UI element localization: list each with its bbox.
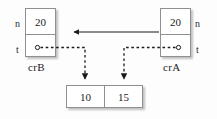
node-crb-field-n-value: 20 xyxy=(26,9,55,35)
node-crb-field-t-label: t xyxy=(16,45,19,55)
node-cra-field-n-value: 20 xyxy=(161,9,190,35)
array-node: 10 15 xyxy=(66,85,143,108)
node-cra-name: crA xyxy=(163,61,180,73)
node-crb-field-n-label: n xyxy=(15,19,20,29)
pointer-diagram: 20 n t crB 20 n t crA 10 15 xyxy=(0,0,217,119)
array-cell-1: 15 xyxy=(105,86,142,107)
node-cra-field-n-label: n xyxy=(195,19,200,29)
node-cra-field-t-label: t xyxy=(196,45,199,55)
array-cell-0: 10 xyxy=(67,86,105,107)
node-cra-field-t-value xyxy=(161,35,190,56)
node-crb-field-t-value xyxy=(26,35,55,56)
node-crb-name: crB xyxy=(28,61,45,73)
node-crb: 20 xyxy=(25,8,56,57)
node-cra: 20 xyxy=(160,8,191,57)
